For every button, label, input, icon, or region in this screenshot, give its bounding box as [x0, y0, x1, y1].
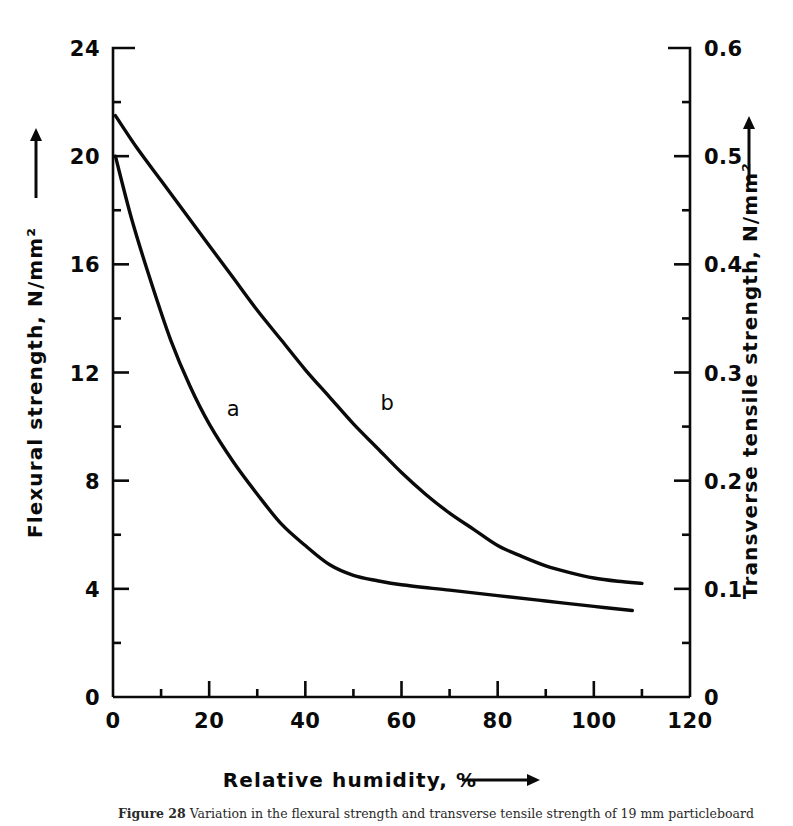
svg-text:20: 20 — [194, 709, 224, 733]
axis-tick-labels: 0481216202400.10.20.30.40.50.60204060801… — [70, 37, 743, 733]
chart-svg: 0481216202400.10.20.30.40.50.60204060801… — [0, 0, 793, 826]
svg-text:Flexural strength, N/mm²: Flexural strength, N/mm² — [23, 227, 47, 538]
axis-titles: Flexural strength, N/mm²Transverse tensi… — [23, 116, 762, 792]
figure-caption-label: Figure 28 — [118, 806, 186, 821]
svg-text:a: a — [227, 397, 240, 421]
svg-text:b: b — [380, 391, 393, 415]
svg-text:40: 40 — [290, 709, 320, 733]
svg-text:24: 24 — [70, 37, 100, 61]
plot-frame — [113, 48, 690, 697]
svg-text:12: 12 — [70, 362, 100, 386]
svg-text:60: 60 — [386, 709, 416, 733]
svg-text:0.5: 0.5 — [704, 145, 743, 169]
svg-text:4: 4 — [85, 578, 100, 602]
svg-text:0.4: 0.4 — [704, 253, 743, 277]
svg-text:120: 120 — [667, 709, 712, 733]
data-curves — [115, 116, 642, 611]
figure-caption-body: Variation in the flexural strength and t… — [190, 806, 754, 821]
svg-text:0: 0 — [85, 686, 100, 710]
svg-text:Transverse tensile strength, N: Transverse tensile strength, N/mm² — [738, 162, 762, 599]
curve-labels: ab — [227, 391, 394, 420]
svg-text:0.6: 0.6 — [704, 37, 743, 61]
figure-caption: Figure 28 Variation in the flexural stre… — [118, 806, 778, 821]
svg-text:80: 80 — [483, 709, 513, 733]
svg-text:0: 0 — [704, 686, 719, 710]
svg-text:20: 20 — [70, 145, 100, 169]
svg-text:16: 16 — [70, 253, 100, 277]
svg-text:0: 0 — [105, 709, 120, 733]
svg-text:0.3: 0.3 — [704, 362, 743, 386]
figure-container: 0481216202400.10.20.30.40.50.60204060801… — [0, 0, 793, 826]
svg-text:0.1: 0.1 — [704, 578, 743, 602]
svg-text:Relative humidity, %: Relative humidity, % — [223, 768, 477, 792]
svg-text:0.2: 0.2 — [704, 470, 743, 494]
svg-text:8: 8 — [85, 470, 100, 494]
svg-text:100: 100 — [571, 709, 616, 733]
